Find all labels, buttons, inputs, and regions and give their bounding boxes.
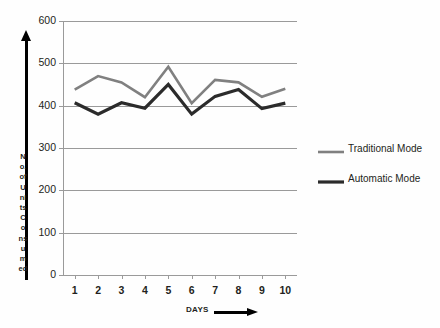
y-tick-label: 100 [26, 227, 56, 238]
x-tick-mark [98, 275, 99, 279]
series-line [75, 85, 286, 115]
x-tick-label: 2 [87, 285, 109, 296]
x-tick-mark [262, 275, 263, 279]
x-tick-label: 8 [228, 285, 250, 296]
y-axis-title-line: of [14, 172, 32, 182]
legend-swatch-line [318, 149, 344, 155]
y-tick-label: 600 [26, 15, 56, 26]
arrow-shaft [214, 311, 248, 314]
arrow-head [247, 308, 258, 316]
x-tick-mark [145, 275, 146, 279]
y-tick-label: 300 [26, 142, 56, 153]
x-tick-mark [168, 275, 169, 279]
x-axis-right-arrow-icon [214, 308, 258, 317]
y-tick-label: 200 [26, 184, 56, 195]
x-tick-label: 5 [157, 285, 179, 296]
y-axis-title-line: ts [14, 203, 32, 213]
legend-swatch-line [318, 179, 344, 185]
x-tick-label: 7 [204, 285, 226, 296]
x-tick-mark [75, 275, 76, 279]
x-tick-mark [285, 275, 286, 279]
legend-label: Traditional Mode [348, 143, 422, 155]
y-axis-title-line: N [14, 152, 32, 162]
x-tick-label: 9 [251, 285, 273, 296]
chart-figure: N o. of U ni ts C o ns u m ed 600 500 40… [0, 0, 440, 328]
x-tick-label: 4 [134, 285, 156, 296]
y-tick-label: 400 [26, 100, 56, 111]
chart-legend: Traditional Mode Automatic Mode [318, 140, 438, 200]
y-tick-mark [59, 275, 63, 276]
legend-label: Automatic Mode [348, 173, 420, 185]
x-axis-title: DAYS [186, 305, 209, 314]
y-tick-label: 0 [26, 269, 56, 280]
x-tick-label: 1 [64, 285, 86, 296]
y-tick-label: 500 [26, 57, 56, 68]
y-axis-title-line: u [14, 244, 32, 254]
series-lines [63, 21, 297, 275]
y-axis-title-line: m [14, 254, 32, 264]
y-axis-title: N o. of U ni ts C o ns u m ed [14, 152, 32, 274]
plot-area [63, 21, 297, 275]
y-axis-title-line: C [14, 213, 32, 223]
x-tick-mark [192, 275, 193, 279]
x-tick-mark [215, 275, 216, 279]
x-tick-label: 3 [111, 285, 133, 296]
legend-item-traditional-mode: Traditional Mode [318, 140, 438, 170]
x-tick-mark [122, 275, 123, 279]
y-axis-title-line: o. [14, 162, 32, 172]
x-tick-mark [239, 275, 240, 279]
legend-item-automatic-mode: Automatic Mode [318, 170, 438, 200]
x-tick-label: 6 [181, 285, 203, 296]
x-tick-label: 10 [274, 285, 296, 296]
